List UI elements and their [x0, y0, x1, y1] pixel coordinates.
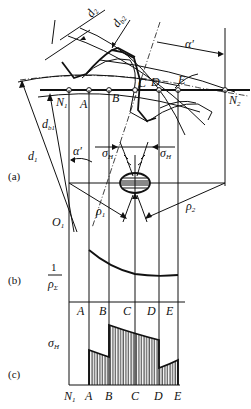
- ylabel-c: σH: [48, 336, 60, 351]
- panel-a-meshing: N1 A B C D E N2 d2 db2 α′: [18, 3, 250, 228]
- label-rho2: ρ2: [185, 199, 196, 214]
- b-label-e: E: [165, 304, 174, 318]
- c-label-n1: N1: [63, 389, 76, 404]
- label-o1: O1: [52, 215, 64, 230]
- label-e: E: [177, 73, 186, 87]
- label-d: D: [150, 75, 160, 89]
- arrow-db1: [47, 93, 53, 101]
- panel-c-stress: (c) σH N1 A B C D E: [8, 325, 182, 404]
- rho2-arrow: [145, 212, 152, 219]
- ylabel-b-num: 1: [51, 261, 57, 273]
- label-c: C: [138, 76, 147, 90]
- dim-ext-1: [52, 20, 55, 44]
- flank-lower-right: [137, 195, 147, 222]
- ylabel-b-den: ρΣ: [47, 277, 59, 292]
- label-sigma-right: σH: [160, 146, 172, 161]
- gear-contact-diagram: N1 A B C D E N2 d2 db2 α′ db1 d1 α′ (a): [0, 0, 251, 409]
- c-label-a: A: [84, 389, 93, 403]
- curvature-curve: [89, 250, 178, 276]
- label-db2: db2: [109, 11, 129, 31]
- label-n2: N2: [228, 93, 241, 108]
- c-label-d: D: [153, 389, 163, 403]
- c-label-e: E: [173, 389, 182, 403]
- label-alpha-top: α′: [185, 37, 194, 51]
- b-label-b: B: [99, 304, 107, 318]
- alpha-top-arrow: [218, 51, 224, 57]
- label-db1: db1: [42, 117, 55, 132]
- label-n1: N1: [55, 95, 68, 110]
- panel-label-b: (b): [8, 274, 21, 287]
- panel-b-curvature: (b) 1 ρΣ A B C D E: [8, 250, 185, 318]
- panel-label-a: (a): [8, 170, 21, 183]
- line-db1: [50, 95, 74, 232]
- sigma-right-arrow: [152, 144, 158, 150]
- gear2-addendum-arc: [100, 60, 235, 92]
- label-alpha-left: α′: [73, 144, 82, 158]
- label-d1-prime: d1: [28, 149, 38, 164]
- label-b: B: [112, 91, 120, 105]
- b-label-a: A: [76, 304, 85, 318]
- label-rho1: ρ1: [95, 204, 105, 219]
- sigma-left-arrow: [112, 144, 118, 150]
- c-label-b: B: [105, 389, 113, 403]
- point-c: [133, 88, 138, 93]
- b-label-d: D: [146, 304, 156, 318]
- c-label-c: C: [131, 389, 140, 403]
- label-a: A: [79, 97, 88, 111]
- label-d2-prime: d2: [83, 3, 101, 20]
- panel-label-c: (c): [8, 368, 21, 381]
- b-label-c: C: [123, 304, 132, 318]
